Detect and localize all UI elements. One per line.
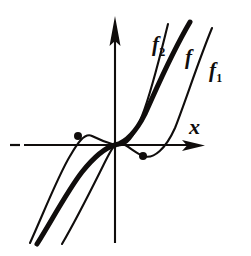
- figure-container: f2 f f1 x: [0, 0, 251, 256]
- curve-label-f2: f2: [152, 34, 165, 58]
- curve-label-f: f: [185, 47, 192, 68]
- curve-label-f-base: f: [185, 45, 192, 69]
- curve-label-f1-subscript: 1: [216, 71, 222, 85]
- curve-label-f1: f1: [209, 60, 222, 84]
- marker-left-dot: [74, 132, 82, 140]
- curve-f2: [30, 24, 168, 243]
- x-axis-label-text: x: [189, 114, 200, 139]
- curve-f: [37, 22, 190, 244]
- marker-right-dot: [139, 152, 147, 160]
- curve-label-f1-base: f: [209, 58, 216, 82]
- curve-label-f2-subscript: 2: [159, 45, 165, 59]
- x-axis-label: x: [189, 116, 200, 138]
- curves-figure-canvas: [0, 0, 251, 256]
- curve-label-f2-base: f: [152, 32, 159, 56]
